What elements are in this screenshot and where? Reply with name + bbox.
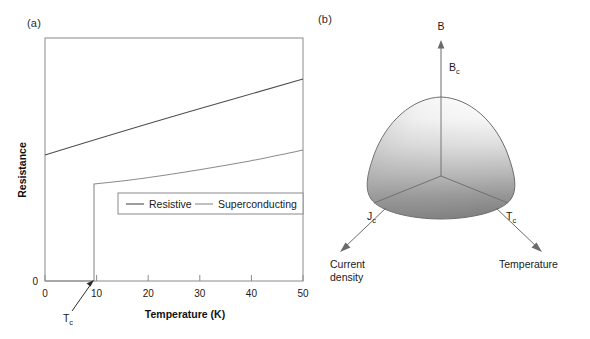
tc-axis xyxy=(496,208,542,252)
legend[interactable]: Resistive Superconducting xyxy=(118,193,303,214)
panel-a-resistance-chart: 0 0 10 20 30 40 50 Temperature (K) Resis… xyxy=(0,0,320,339)
current-density-label-line2: density xyxy=(330,271,364,283)
panel-a-svg: 0 0 10 20 30 40 50 Temperature (K) Resis… xyxy=(0,0,320,339)
y-tick-label-0: 0 xyxy=(32,276,38,287)
x-tick-label-40: 40 xyxy=(246,288,258,299)
current-density-label-line1: Current xyxy=(330,258,365,270)
b-axis-label: B xyxy=(437,20,444,32)
panel-b-critical-surface: B Bc Jc Current density xyxy=(310,0,590,339)
critical-surface xyxy=(367,97,515,219)
tc-annotation: Tc xyxy=(63,280,94,327)
temperature-axis-label: Temperature xyxy=(499,258,558,270)
x-tick-label-20: 20 xyxy=(143,288,155,299)
x-tick-label-50: 50 xyxy=(297,288,309,299)
jc-label: Jc xyxy=(367,210,376,225)
jc-axis xyxy=(340,208,386,252)
x-tick-label-30: 30 xyxy=(194,288,206,299)
bc-label: Bc xyxy=(449,61,460,76)
legend-label-superconducting: Superconducting xyxy=(218,198,297,210)
x-tick-label-0: 0 xyxy=(42,288,48,299)
x-axis-title: Temperature (K) xyxy=(145,308,225,320)
legend-label-resistive: Resistive xyxy=(149,198,192,210)
x-tick-label-10: 10 xyxy=(91,288,103,299)
y-axis-title: Resistance xyxy=(16,142,28,198)
tc-label: Tc xyxy=(63,312,73,327)
figure-container: (a) (b) 0 0 10 20 3 xyxy=(0,0,590,339)
plot-frame xyxy=(45,38,303,281)
panel-b-svg: B Bc Jc Current density xyxy=(310,0,590,339)
